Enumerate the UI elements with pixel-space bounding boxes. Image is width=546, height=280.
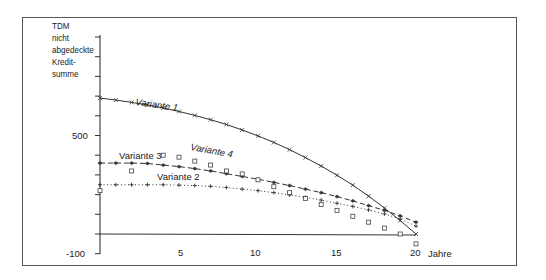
marker-square xyxy=(209,163,213,167)
marker-square xyxy=(398,232,402,236)
marker-plus xyxy=(114,183,118,187)
marker-square xyxy=(319,202,323,206)
marker-diamond xyxy=(177,165,181,168)
marker-x xyxy=(303,156,307,160)
marker-square xyxy=(351,214,355,218)
marker-square xyxy=(193,159,197,163)
marker-x xyxy=(319,164,323,168)
marker-square xyxy=(414,242,418,246)
marker-diamond xyxy=(193,167,197,170)
marker-plus xyxy=(256,189,260,193)
marker-diamond xyxy=(114,161,118,164)
marker-diamond xyxy=(129,161,133,164)
marker-diamond xyxy=(145,162,149,165)
marker-square xyxy=(335,208,339,212)
marker-diamond xyxy=(208,169,212,172)
marker-x xyxy=(335,173,339,177)
marker-diamond xyxy=(287,184,291,187)
marker-diamond xyxy=(319,191,323,194)
marker-diamond xyxy=(98,161,102,164)
marker-square xyxy=(256,178,260,182)
x-axis-title: Jahre xyxy=(428,248,452,259)
marker-square xyxy=(367,220,371,224)
marker-plus xyxy=(398,217,402,221)
marker-square xyxy=(177,155,181,159)
marker-plus xyxy=(367,208,371,212)
marker-diamond xyxy=(351,199,355,202)
marker-plus xyxy=(130,183,134,187)
y-tick-500: 500 xyxy=(72,130,88,141)
marker-plus xyxy=(272,191,276,195)
marker-plus xyxy=(335,201,339,205)
marker-x xyxy=(367,194,371,198)
marker-plus xyxy=(382,212,386,216)
series-line xyxy=(100,98,416,234)
x-tick-20: 20 xyxy=(410,247,421,258)
marker-square xyxy=(288,191,292,195)
x-axis-baseline xyxy=(100,234,416,235)
marker-plus xyxy=(351,204,355,208)
marker-square xyxy=(240,172,244,176)
marker-square xyxy=(303,197,307,201)
marker-square xyxy=(161,153,165,157)
marker-plus xyxy=(319,198,323,202)
x-tick-15: 15 xyxy=(331,247,342,258)
x-tick-5: 5 xyxy=(178,247,183,258)
marker-plus xyxy=(177,183,181,187)
series-layer xyxy=(98,96,418,246)
marker-square xyxy=(272,185,276,189)
marker-diamond xyxy=(335,195,339,198)
marker-plus xyxy=(98,183,102,187)
marker-plus xyxy=(414,224,418,228)
chart-plot: 500 -100 5 10 15 20 Jahre Variante 1 Var… xyxy=(0,0,546,280)
marker-plus xyxy=(161,183,165,187)
marker-diamond xyxy=(272,181,276,184)
marker-square xyxy=(98,189,102,193)
label-variante-3: Variante 3 xyxy=(119,150,162,161)
marker-x xyxy=(351,183,355,187)
marker-square xyxy=(224,169,228,173)
marker-plus xyxy=(145,183,149,187)
marker-plus xyxy=(193,184,197,188)
y-tick-minus100: -100 xyxy=(66,248,85,259)
label-variante-4: Variante 4 xyxy=(190,141,234,159)
x-tick-10: 10 xyxy=(250,247,261,258)
marker-x xyxy=(288,148,292,152)
marker-diamond xyxy=(161,163,165,166)
marker-square xyxy=(130,169,134,173)
marker-diamond xyxy=(366,204,370,207)
marker-plus xyxy=(240,187,244,191)
label-variante-2: Variante 2 xyxy=(157,171,200,182)
marker-x xyxy=(414,232,418,236)
marker-diamond xyxy=(303,187,307,190)
marker-plus xyxy=(209,184,213,188)
marker-square xyxy=(382,226,386,230)
label-variante-1: Variante 1 xyxy=(135,96,179,113)
marker-plus xyxy=(224,186,228,190)
marker-x xyxy=(272,140,276,144)
